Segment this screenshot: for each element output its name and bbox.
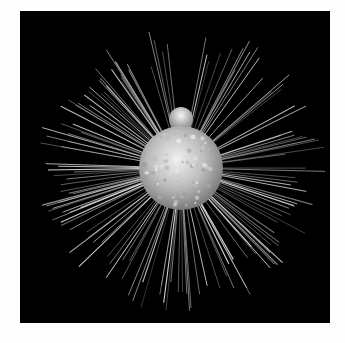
spine — [166, 193, 178, 310]
radiolarian-illustration — [20, 11, 330, 323]
radiolarian-photo — [20, 11, 330, 323]
spine — [193, 41, 250, 146]
spine — [42, 128, 157, 161]
spine — [183, 193, 190, 311]
spine — [206, 140, 319, 163]
spine — [141, 192, 174, 307]
spine — [206, 169, 325, 172]
